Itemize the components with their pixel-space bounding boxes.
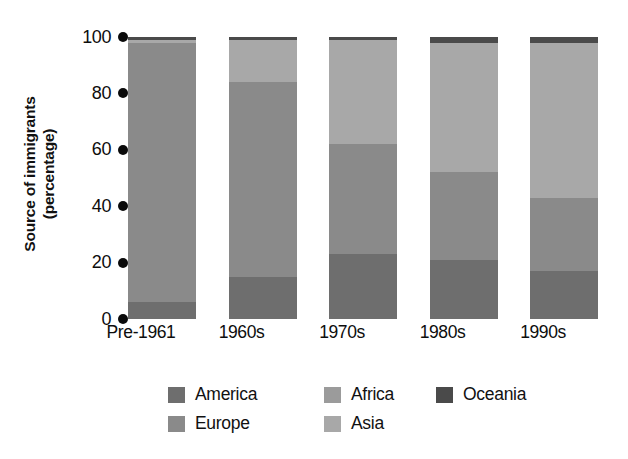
y-axis-tick-label: 60	[92, 139, 111, 160]
bar-segment	[530, 271, 598, 319]
bar-segment	[329, 40, 397, 144]
legend-item[interactable]: Asia	[324, 409, 394, 438]
y-axis-tick-marker-icon	[118, 258, 128, 268]
legend-column: AfricaAsia	[324, 380, 394, 438]
x-axis-label: 1960s	[187, 322, 297, 343]
legend-label: Europe	[195, 413, 250, 434]
stacked-bar-chart: Source of immigrants (percentage) 020406…	[0, 0, 628, 459]
legend-swatch-icon	[324, 387, 341, 403]
bar-segment	[329, 254, 397, 319]
y-axis-tick: 60	[92, 141, 128, 159]
bar-group	[329, 37, 397, 319]
legend-swatch-icon	[324, 416, 341, 432]
y-axis-ticks: 020406080100	[60, 0, 128, 459]
bar-segment	[430, 172, 498, 259]
y-axis-title: Source of immigrants (percentage)	[20, 49, 58, 299]
x-axis-label: Pre-1961	[86, 322, 196, 343]
chart-legend: AmericaEuropeAfricaAsiaOceania	[168, 380, 608, 442]
bar-segment	[430, 43, 498, 173]
y-axis-tick: 100	[82, 28, 128, 46]
y-axis-tick-marker-icon	[118, 145, 128, 155]
bar-segment	[229, 40, 297, 82]
x-axis-label: 1980s	[388, 322, 498, 343]
legend-label: Africa	[351, 384, 394, 405]
bar-segment	[530, 198, 598, 271]
legend-label: Oceania	[463, 384, 526, 405]
x-axis-label: 1970s	[287, 322, 397, 343]
y-axis-tick-label: 20	[92, 252, 111, 273]
y-axis-title-line2: (percentage)	[39, 49, 58, 299]
y-axis-tick-marker-icon	[118, 32, 128, 42]
plot-area	[128, 37, 598, 319]
y-axis-title-line1: Source of immigrants	[21, 96, 38, 251]
legend-item[interactable]: America	[168, 380, 257, 409]
legend-swatch-icon	[436, 387, 453, 403]
bar-segment	[430, 260, 498, 319]
legend-item[interactable]: Oceania	[436, 380, 526, 409]
y-axis-tick-marker-icon	[118, 201, 128, 211]
x-axis-label: 1990s	[488, 322, 598, 343]
bar-group	[128, 37, 196, 319]
bar-segment	[128, 302, 196, 319]
legend-column: AmericaEurope	[168, 380, 257, 438]
y-axis-tick-label: 100	[82, 27, 111, 48]
bar-segment	[128, 43, 196, 302]
legend-label: Asia	[351, 413, 384, 434]
bar-segment	[329, 144, 397, 254]
bar-group	[430, 37, 498, 319]
bar-segment	[530, 43, 598, 198]
bar-segment	[229, 277, 297, 319]
legend-label: America	[195, 384, 257, 405]
y-axis-tick-label: 40	[92, 196, 111, 217]
legend-swatch-icon	[168, 387, 185, 403]
bar-group	[229, 37, 297, 319]
y-axis-tick: 80	[92, 84, 128, 102]
x-axis-labels: Pre-19611960s1970s1980s1990s	[128, 322, 598, 352]
legend-item[interactable]: Africa	[324, 380, 394, 409]
y-axis-tick: 40	[92, 197, 128, 215]
bar-group	[530, 37, 598, 319]
bar-segment	[229, 82, 297, 277]
legend-swatch-icon	[168, 416, 185, 432]
y-axis-tick-label: 80	[92, 83, 111, 104]
y-axis-tick-marker-icon	[118, 88, 128, 98]
legend-column: Oceania	[436, 380, 526, 409]
legend-item[interactable]: Europe	[168, 409, 257, 438]
y-axis-tick: 20	[92, 254, 128, 272]
